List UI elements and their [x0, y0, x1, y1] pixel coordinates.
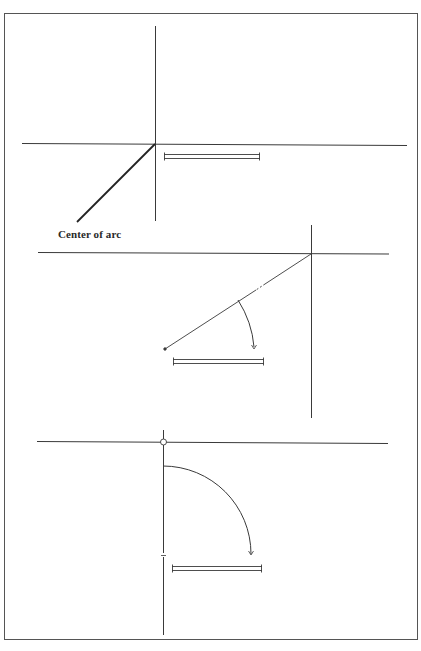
panel-step-1	[22, 26, 407, 222]
double-bar-scale	[172, 565, 262, 573]
horizontal-reference-line	[22, 144, 407, 146]
double-bar-scale	[173, 358, 264, 366]
figure-frame	[5, 14, 418, 640]
center-pointer-line	[77, 144, 155, 222]
radius-line-lower	[165, 290, 256, 349]
panel-step-2	[38, 225, 389, 418]
center-of-arc-label: Center of arc	[58, 228, 121, 240]
horizontal-reference-line	[38, 253, 389, 255]
radius-line-dashed-segment	[256, 284, 265, 290]
swing-arc	[238, 300, 254, 347]
double-bar-scale	[164, 153, 260, 161]
endpoint-dot	[164, 348, 166, 350]
horizontal-reference-line	[37, 442, 388, 444]
construction-diagram	[0, 0, 421, 651]
diagram-figure: Center of arc	[0, 0, 421, 651]
pivot-circle-icon	[161, 439, 167, 445]
radius-line	[265, 254, 311, 284]
quarter-arc	[163, 466, 251, 554]
panel-step-3	[37, 430, 388, 635]
